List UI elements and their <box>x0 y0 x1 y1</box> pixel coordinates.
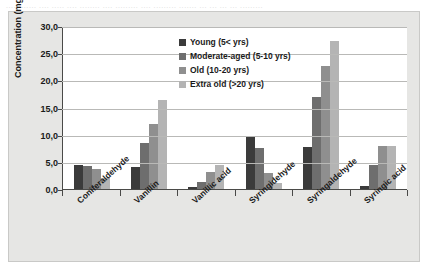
bar <box>158 100 167 189</box>
chart-card: Concentration (mg/L) 0,05,010,015,020,02… <box>8 11 420 262</box>
bar <box>303 147 312 189</box>
scanned-header-text: ............ .... ..... .... ........ ..… <box>0 0 428 11</box>
y-axis-tick-label: 20,0 <box>40 76 58 86</box>
legend-swatch <box>179 39 186 46</box>
y-axis-tick-label: 30,0 <box>40 22 58 32</box>
legend-label: Young (5< yrs) <box>190 37 249 47</box>
bar <box>360 186 369 189</box>
y-axis-tick-label: 15,0 <box>40 104 58 114</box>
legend-item: Old (10-20 yrs) <box>179 64 291 76</box>
legend-item: Extra old (>20 yrs) <box>179 78 291 90</box>
x-axis-category-labels: ConiferaldehydeVanillinVanillic acidSyri… <box>9 190 421 260</box>
legend-swatch <box>179 53 186 60</box>
legend-swatch <box>179 67 186 74</box>
bar <box>312 97 321 189</box>
y-axis-tick-label: 25,0 <box>40 49 58 59</box>
bar <box>321 66 330 189</box>
bar <box>74 165 83 189</box>
legend-label: Moderate-aged (5-10 yrs) <box>190 51 291 61</box>
y-axis-tick-label: 5,0 <box>45 158 58 168</box>
legend-item: Moderate-aged (5-10 yrs) <box>179 50 291 62</box>
chart-screenshot: ............ .... ..... .... ........ ..… <box>0 0 428 270</box>
bar <box>131 167 140 189</box>
gridline <box>62 27 407 28</box>
y-axis-tick-labels: 0,05,010,015,020,025,030,0 <box>22 27 58 190</box>
y-axis-tick-label: 10,0 <box>40 131 58 141</box>
legend-label: Extra old (>20 yrs) <box>190 79 264 89</box>
bar <box>188 187 197 189</box>
legend-swatch <box>179 81 186 88</box>
gridline <box>62 136 407 137</box>
legend: Young (5< yrs)Moderate-aged (5-10 yrs)Ol… <box>179 36 291 92</box>
legend-label: Old (10-20 yrs) <box>190 65 249 75</box>
legend-item: Young (5< yrs) <box>179 36 291 48</box>
gridline <box>62 109 407 110</box>
